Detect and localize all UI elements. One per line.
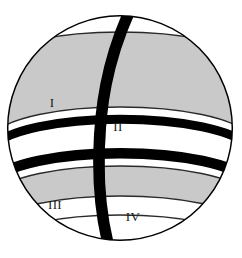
region-label-ii: II [113, 119, 122, 134]
sphere-diagram-svg: I II III IV [0, 0, 242, 258]
region-label-i: I [50, 95, 55, 110]
region-label-iv: IV [126, 209, 141, 224]
sphere-figure: I II III IV [0, 0, 242, 258]
region-label-iii: III [48, 197, 62, 212]
